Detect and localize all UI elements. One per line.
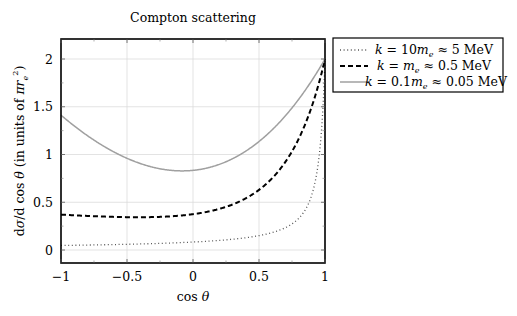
- x-tick-label: 0: [189, 269, 197, 284]
- legend-label-0.05mev: k = 0.1me ≈ 0.05 MeV: [365, 74, 508, 91]
- x-tick-label: 0.5: [249, 269, 269, 284]
- x-tick-labels: −1−0.500.51: [52, 269, 329, 284]
- legend-label-5mev: k = 10me ≈ 5 MeV: [375, 42, 494, 59]
- y-axis-label: dσ/d cos θ (in units of πre2): [11, 66, 30, 237]
- legend: k = 10me ≈ 5 MeV k = me ≈ 0.5 MeV k = 0.…: [333, 38, 508, 92]
- grid: [61, 39, 325, 263]
- y-tick-label: 2: [45, 52, 53, 67]
- x-axis-label: cos θ: [177, 289, 210, 304]
- compton-chart: Compton scattering −1−0.500.51 00.511.52…: [0, 0, 517, 316]
- chart-title: Compton scattering: [130, 10, 256, 25]
- legend-label-0.5mev: k = me ≈ 0.5 MeV: [377, 58, 492, 75]
- x-tick-label: −1: [52, 269, 70, 284]
- x-tick-label: −0.5: [112, 269, 142, 284]
- y-tick-label: 1: [45, 147, 53, 162]
- x-tick-label: 1: [321, 269, 329, 284]
- y-tick-label: 0.5: [33, 195, 53, 210]
- y-tick-label: 0: [45, 243, 53, 258]
- y-tick-labels: 00.511.52: [33, 52, 53, 258]
- y-tick-label: 1.5: [33, 99, 53, 114]
